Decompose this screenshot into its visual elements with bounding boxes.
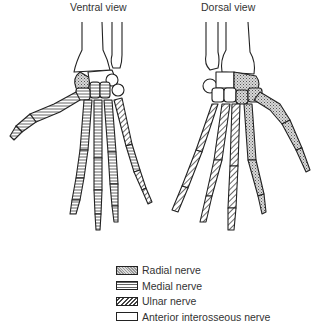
hand-bones-diagram — [0, 0, 321, 260]
legend-label: Medial nerve — [142, 280, 202, 292]
legend: Radial nerve Medial nerve Ulnar nerve An… — [116, 263, 270, 325]
ventral-ulna — [111, 22, 122, 68]
medial-nerve-swatch — [116, 281, 138, 290]
legend-item-anterior-interosseous-nerve: Anterior interosseous nerve — [116, 310, 270, 324]
ulnar-nerve-swatch — [116, 297, 138, 306]
dorsal-ulna — [206, 22, 220, 70]
radial-nerve-swatch — [116, 266, 138, 275]
anterior-interosseous-nerve-swatch — [116, 312, 138, 321]
legend-label: Anterior interosseous nerve — [142, 311, 270, 323]
legend-label: Radial nerve — [142, 264, 201, 276]
dorsal-hand — [172, 22, 310, 230]
ventral-radius — [74, 22, 110, 72]
ventral-hand — [10, 22, 152, 230]
legend-item-radial-nerve: Radial nerve — [116, 263, 270, 277]
legend-item-medial-nerve: Medial nerve — [116, 279, 270, 293]
dorsal-radius — [222, 22, 255, 74]
legend-label: Ulnar nerve — [142, 295, 196, 307]
legend-item-ulnar-nerve: Ulnar nerve — [116, 294, 270, 308]
